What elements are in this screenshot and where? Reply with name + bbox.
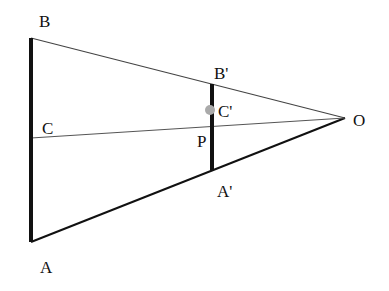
label-O: O — [353, 111, 365, 130]
similar-triangles-diagram: B A C O B' A' C' P — [0, 0, 389, 291]
label-C-prime: C' — [218, 102, 232, 121]
segment-AO — [31, 118, 345, 242]
label-C: C — [42, 119, 53, 138]
label-A: A — [40, 258, 53, 277]
segment-BO — [31, 38, 345, 118]
segment-CO — [31, 118, 345, 138]
label-P: P — [197, 132, 206, 151]
label-A-prime: A' — [217, 182, 232, 201]
label-B: B — [39, 12, 50, 31]
point-C-prime-marker — [205, 105, 215, 115]
label-B-prime: B' — [214, 64, 228, 83]
